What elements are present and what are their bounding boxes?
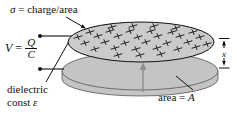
- capacitor-diagram: x σ = charge/area V = Q C dielectric con…: [0, 0, 237, 120]
- equals-sign: =: [15, 42, 22, 55]
- voltage-symbol: V: [5, 42, 12, 55]
- top-terminal-dot: [38, 34, 42, 38]
- top-plate: [68, 22, 214, 62]
- sigma-label: σ = charge/area: [10, 3, 78, 16]
- q-over-c-fraction: Q C: [25, 37, 37, 60]
- epsilon-symbol: ε: [33, 96, 37, 108]
- area-symbol: A: [188, 91, 195, 103]
- dielectric-label-line2: const ε: [7, 96, 48, 109]
- dielectric-label: dielectric const ε: [7, 83, 48, 109]
- sigma-leader-arrow: [66, 17, 85, 28]
- sigma-equation-text: = charge/area: [15, 3, 77, 15]
- area-text: area =: [158, 91, 188, 103]
- separation-dimension: x: [219, 39, 230, 69]
- dielectric-label-line1: dielectric: [7, 83, 48, 96]
- const-text: const: [7, 96, 33, 108]
- capacitance-symbol: C: [25, 49, 36, 60]
- bottom-terminal-dot: [38, 67, 42, 71]
- area-label: area = A: [158, 91, 195, 104]
- separation-label: x: [221, 49, 226, 59]
- voltage-label: V = Q C: [5, 37, 37, 60]
